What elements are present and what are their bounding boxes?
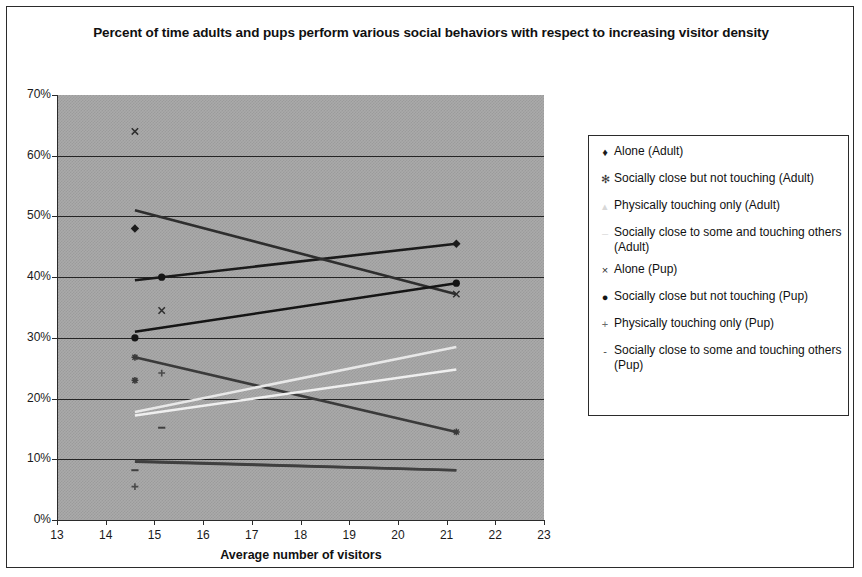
series-trendline xyxy=(135,347,456,412)
data-point-marker xyxy=(159,307,165,313)
y-tick-label: 40% xyxy=(7,269,51,283)
x-tick-mark xyxy=(57,520,58,525)
x-tick-mark xyxy=(495,520,496,525)
legend-marker-icon: ● xyxy=(597,289,613,305)
legend-item-label: Socially close to some and touching othe… xyxy=(613,225,842,255)
legend-item[interactable]: ▴Physically touching only (Adult) xyxy=(597,198,842,218)
legend-marker-icon: ▴ xyxy=(597,198,613,214)
chart-frame: Percent of time adults and pups perform … xyxy=(6,6,854,568)
legend-item-label: Socially close but not touching (Adult) xyxy=(613,171,814,186)
legend-item[interactable]: –Socially close to some and touching oth… xyxy=(597,225,842,255)
x-tick-label: 15 xyxy=(139,528,169,542)
series-trendline xyxy=(135,369,456,415)
plot-series-layer xyxy=(57,95,544,520)
x-tick-label: 14 xyxy=(91,528,121,542)
legend-item[interactable]: ●Socially close but not touching (Pup) xyxy=(597,289,842,309)
legend-item-label: Alone (Adult) xyxy=(613,144,683,159)
legend-item[interactable]: +Physically touching only (Pup) xyxy=(597,316,842,336)
x-tick-mark xyxy=(349,520,350,525)
x-tick-label: 21 xyxy=(432,528,462,542)
data-point-marker xyxy=(453,280,460,287)
series-trendline xyxy=(135,357,456,432)
legend-item-label: Socially close to some and touching othe… xyxy=(613,343,842,373)
data-point-marker xyxy=(132,128,138,134)
y-tick-label: 0% xyxy=(7,512,51,526)
x-tick-label: 19 xyxy=(334,528,364,542)
series-trendline xyxy=(135,462,456,471)
x-tick-mark xyxy=(544,520,545,525)
data-point-marker xyxy=(158,274,165,281)
legend-item-label: Physically touching only (Adult) xyxy=(613,198,780,213)
y-tick-label: 30% xyxy=(7,330,51,344)
x-tick-label: 20 xyxy=(383,528,413,542)
x-tick-mark xyxy=(252,520,253,525)
x-tick-mark xyxy=(106,520,107,525)
legend-marker-icon: ♦ xyxy=(597,144,613,160)
x-tick-label: 22 xyxy=(480,528,510,542)
x-tick-label: 13 xyxy=(42,528,72,542)
chart-title: Percent of time adults and pups perform … xyxy=(67,23,795,44)
legend-item[interactable]: ✻Socially close but not touching (Adult) xyxy=(597,171,842,191)
legend-item[interactable]: ×Alone (Pup) xyxy=(597,262,842,282)
data-point-marker xyxy=(132,354,139,361)
legend-item-label: Physically touching only (Pup) xyxy=(613,316,774,331)
data-point-marker xyxy=(132,377,139,384)
series-trendline xyxy=(135,244,456,280)
y-tick-label: 50% xyxy=(7,208,51,222)
y-tick-label: 70% xyxy=(7,87,51,101)
legend-marker-icon: – xyxy=(597,225,613,241)
legend-item-label: Alone (Pup) xyxy=(613,262,677,277)
y-tick-label: 10% xyxy=(7,451,51,465)
series-trendline xyxy=(135,210,456,294)
data-point-marker xyxy=(132,483,139,490)
legend-item[interactable]: -Socially close to some and touching oth… xyxy=(597,343,842,373)
data-point-marker xyxy=(131,224,139,232)
legend-marker-icon: - xyxy=(597,343,613,359)
x-axis-title: Average number of visitors xyxy=(57,548,545,562)
legend-item-label: Socially close but not touching (Pup) xyxy=(613,289,808,304)
legend-item[interactable]: ♦Alone (Adult) xyxy=(597,144,842,164)
legend-marker-icon: ✻ xyxy=(597,171,613,187)
legend-marker-icon: + xyxy=(597,316,613,332)
x-tick-mark xyxy=(301,520,302,525)
x-tick-label: 18 xyxy=(286,528,316,542)
chart-legend: ♦Alone (Adult)✻Socially close but not to… xyxy=(588,135,849,416)
legend-marker-icon: × xyxy=(597,262,613,278)
x-tick-mark xyxy=(154,520,155,525)
plot-area xyxy=(57,95,544,520)
x-tick-label: 23 xyxy=(529,528,559,542)
data-point-marker xyxy=(131,334,138,341)
data-point-marker xyxy=(453,429,460,436)
data-point-marker xyxy=(452,240,460,248)
data-point-marker xyxy=(158,370,165,377)
x-tick-label: 16 xyxy=(188,528,218,542)
x-tick-mark xyxy=(203,520,204,525)
y-tick-label: 20% xyxy=(7,391,51,405)
x-tick-mark xyxy=(398,520,399,525)
y-tick-label: 60% xyxy=(7,148,51,162)
x-tick-label: 17 xyxy=(237,528,267,542)
x-tick-mark xyxy=(447,520,448,525)
series-trendline xyxy=(135,283,456,332)
